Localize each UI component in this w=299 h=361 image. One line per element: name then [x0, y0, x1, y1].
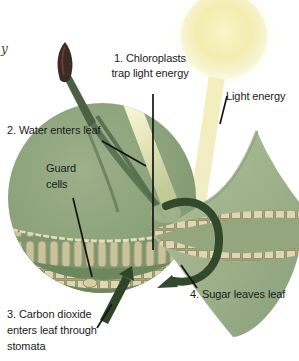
label-sugar: 4. Sugar leaves leaf	[190, 287, 285, 303]
label-light-energy: Light energy	[226, 89, 285, 105]
marginalia-fragment: y	[1, 42, 8, 56]
label-guard-cells-line2: cells	[46, 177, 76, 193]
label-chloroplasts-line1: 1. Chloroplasts	[86, 51, 214, 66]
sugar-arrowhead	[157, 275, 178, 288]
label-guard-cells: Guard cells	[46, 161, 76, 193]
label-chloroplasts-line2: trap light energy	[86, 66, 214, 81]
label-chloroplasts: 1. Chloroplasts trap light energy	[86, 51, 214, 82]
guard-cell-pair	[83, 279, 97, 288]
label-carbon-dioxide: 3. Carbon dioxide enters leaf through st…	[7, 307, 97, 355]
photosynthesis-diagram: y 1. Chloroplasts trap light energy Ligh…	[0, 0, 299, 361]
label-carbon-dioxide-line1: 3. Carbon dioxide	[7, 307, 97, 323]
label-carbon-dioxide-line2: enters leaf through	[7, 323, 97, 339]
label-guard-cells-line1: Guard	[46, 161, 76, 177]
label-water: 2. Water enters leaf	[7, 123, 101, 139]
label-carbon-dioxide-line3: stomata	[7, 339, 97, 355]
